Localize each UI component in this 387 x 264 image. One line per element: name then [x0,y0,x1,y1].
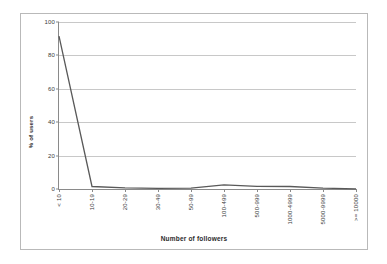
x-tick-mark [191,189,192,192]
plot-wrapper: 020406080100 < 1010-1920-2930-4950-99100… [58,22,356,190]
x-tick-mark [125,189,126,192]
y-axis-title: % of users [28,115,34,147]
x-tick-label: 10-19 [89,194,95,210]
chart-container: % of users 020406080100 < 1010-1920-2930… [20,13,368,250]
y-tick-label: 0 [51,186,55,192]
x-axis-title: Number of followers [21,235,367,242]
x-tick-label: 30-49 [155,194,161,210]
x-tick-label: 50-99 [188,194,194,210]
plot-area: 020406080100 < 1010-1920-2930-4950-99100… [58,22,356,190]
x-tick-mark [356,189,357,192]
x-tick-mark [92,189,93,192]
x-tick-label: >= 10000 [353,194,359,221]
y-tick-label: 20 [48,153,55,159]
x-tick-mark [290,189,291,192]
data-series-line [59,22,356,189]
y-tick-label: 40 [48,119,55,125]
x-tick-label: 500-999 [254,194,260,217]
y-tick-label: 60 [48,86,55,92]
x-tick-mark [158,189,159,192]
y-tick-label: 100 [44,19,55,25]
x-tick-label: 1000-4999 [287,194,293,225]
x-tick-mark [257,189,258,192]
x-tick-mark [224,189,225,192]
x-tick-label: 5000-9999 [320,194,326,225]
x-tick-label: 20-29 [122,194,128,210]
x-tick-label: < 10 [56,194,62,207]
x-tick-mark [323,189,324,192]
y-tick-label: 80 [48,52,55,58]
x-tick-mark [59,189,60,192]
x-tick-label: 100-499 [221,194,227,217]
